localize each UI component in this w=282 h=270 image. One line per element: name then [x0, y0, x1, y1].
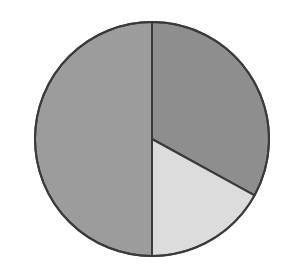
- pie-slices: [35, 22, 269, 256]
- pie-chart-canvas: [0, 0, 282, 270]
- pie-chart: [0, 0, 282, 270]
- pie-slice-3: [35, 22, 152, 256]
